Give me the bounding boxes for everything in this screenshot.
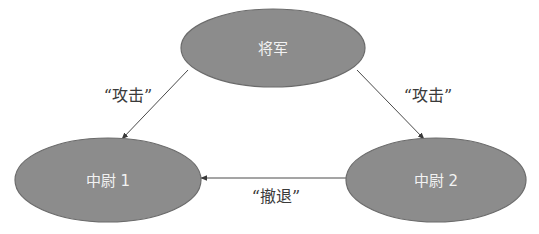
node-label: 中尉 2 xyxy=(414,172,458,190)
node-label: 中尉 1 xyxy=(86,172,130,190)
node-lieutenant1: 中尉 1 xyxy=(15,138,201,222)
diagram-canvas: 将军 中尉 1 中尉 2 “攻击” “攻击” “撤退” xyxy=(0,0,539,234)
edge-label-attack-right: “攻击” xyxy=(404,86,452,105)
edge-label-attack-left: “攻击” xyxy=(104,86,152,105)
node-lieutenant2: 中尉 2 xyxy=(346,138,526,222)
node-label: 将军 xyxy=(258,40,288,58)
edge-label-retreat: “撤退” xyxy=(252,187,300,206)
node-general: 将军 xyxy=(181,9,365,87)
